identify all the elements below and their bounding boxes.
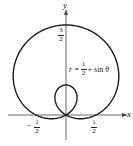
x-axis-label: x xyxy=(127,110,131,119)
x-tick-half: 1 2 xyxy=(91,119,97,135)
x-tick-neg-sign: − xyxy=(27,121,32,130)
y-axis-label: y xyxy=(63,1,67,10)
curve-equation-label: r = 1 2 + sin θ xyxy=(69,61,109,77)
y-tick-3-2: 3 2 xyxy=(58,27,64,43)
polar-plot xyxy=(0,0,133,146)
x-tick-neg-half: 1 2 xyxy=(34,119,40,135)
